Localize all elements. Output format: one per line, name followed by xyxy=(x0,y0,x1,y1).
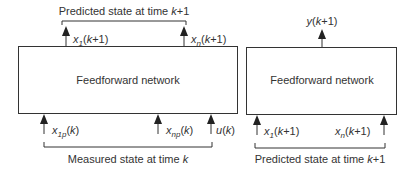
top-bracket xyxy=(62,21,186,25)
arrow-up-icon xyxy=(253,115,261,125)
input-arrow-xn: xn(k+1) xyxy=(334,115,388,140)
input-arrow-u: u(k) xyxy=(207,114,235,136)
bottom-bracket xyxy=(255,143,385,148)
input-arrow-xnp: xnp(k) xyxy=(154,114,193,139)
input-label: u(k) xyxy=(216,124,235,136)
input-label: x1p(k) xyxy=(51,124,79,139)
input-arrow-x1: x1(k+1) xyxy=(253,115,299,140)
input-label: xnp(k) xyxy=(165,124,193,139)
arrow-up-icon xyxy=(62,26,70,36)
arrow-up-icon xyxy=(180,26,188,36)
input-arrow-x1p: x1p(k) xyxy=(40,114,79,139)
top-bracket-label: Predicted state at time k+1 xyxy=(59,5,190,17)
diagram-canvas: Predicted state at time k+1 x1(k+1) xn(k… xyxy=(0,0,409,172)
output-arrow-y: y(k+1) xyxy=(306,15,338,47)
arrow-up-icon xyxy=(207,114,215,124)
input-label: x1(k+1) xyxy=(263,125,299,140)
output-arrow-xn: xn(k+1) xyxy=(180,26,226,48)
network-title: Feedforward network xyxy=(76,74,180,86)
left-network-block: Predicted state at time k+1 x1(k+1) xn(k… xyxy=(19,5,238,165)
arrow-up-icon xyxy=(380,115,388,125)
input-label: xn(k+1) xyxy=(334,125,370,140)
output-label: x1(k+1) xyxy=(72,33,108,48)
output-label: y(k+1) xyxy=(306,15,338,27)
bottom-bracket-label: Predicted state at time k+1 xyxy=(255,153,386,165)
network-title: Feedforward network xyxy=(270,74,374,86)
arrow-up-icon xyxy=(318,29,326,39)
right-network-block: y(k+1) Feedforward network x1(k+1) xn(k+… xyxy=(247,15,397,165)
output-label: xn(k+1) xyxy=(190,33,226,48)
output-arrow-x1: x1(k+1) xyxy=(62,26,108,48)
bottom-bracket-label: Measured state at time k xyxy=(68,153,189,165)
bottom-bracket xyxy=(44,142,212,147)
arrow-up-icon xyxy=(40,114,48,124)
arrow-up-icon xyxy=(154,114,162,124)
